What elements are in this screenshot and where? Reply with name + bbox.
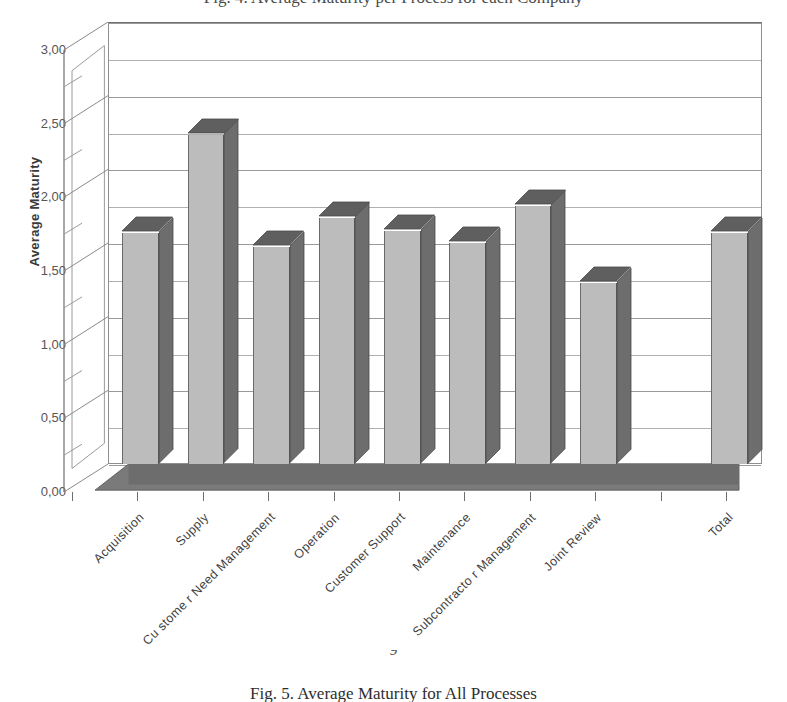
- bar-front-face: [580, 283, 617, 464]
- figure-chart-area: Average Maturity 0,000,501,001,502,002,5…: [0, 8, 787, 668]
- x-axis-tick: [464, 492, 465, 501]
- bars-layer: [72, 22, 762, 492]
- bar-front-face: [253, 247, 290, 464]
- bar-side-face: [224, 119, 240, 464]
- x-axis-tick: [399, 492, 400, 501]
- x-axis-label: Operation: [291, 510, 342, 561]
- bar-front-face: [319, 218, 356, 464]
- bar-front-face: [711, 233, 748, 464]
- bar-side-face: [748, 217, 764, 464]
- bar-top-face: [319, 201, 372, 218]
- bar-side-face: [486, 227, 502, 464]
- bar-side-face: [290, 231, 306, 464]
- plot-area-3d: [72, 22, 762, 492]
- x-axis-label: Cu stome r Need Management: [140, 510, 278, 648]
- bar-top-face: [384, 214, 437, 231]
- x-axis-tick: [530, 492, 531, 501]
- cropped-top-caption-text: Fig. 4. Average Maturity per Process for…: [0, 0, 787, 8]
- bar-side-face: [355, 202, 371, 464]
- bar-side-face: [421, 215, 437, 464]
- bar-column[interactable]: [449, 229, 486, 464]
- bar-column[interactable]: [580, 269, 617, 464]
- bar-front-face: [188, 135, 225, 464]
- x-axis-tick: [203, 492, 204, 501]
- x-axis-label: Joint Review: [541, 510, 604, 573]
- x-axis-tick: [595, 492, 596, 501]
- bar-column[interactable]: [319, 204, 356, 464]
- page-number-text: 9: [390, 650, 398, 658]
- bar-top-face: [253, 230, 306, 247]
- bar-column[interactable]: [253, 233, 290, 464]
- bar-column[interactable]: [122, 219, 159, 464]
- bar-top-face: [188, 118, 241, 135]
- bar-top-face: [711, 216, 764, 233]
- bar-side-face: [159, 217, 175, 464]
- bar-top-face: [580, 266, 633, 283]
- bar-top-face: [515, 189, 568, 206]
- bar-front-face: [515, 206, 552, 464]
- x-axis-tick: [334, 492, 335, 501]
- bar-column[interactable]: [515, 192, 552, 464]
- x-axis-label: Total: [706, 510, 736, 540]
- figure-caption-text: Fig. 5. Average Maturity for All Process…: [0, 684, 787, 702]
- bar-column[interactable]: [711, 219, 748, 464]
- x-axis-tick: [268, 492, 269, 501]
- bar-column[interactable]: [188, 121, 225, 464]
- bar-column[interactable]: [384, 217, 421, 464]
- x-axis-tick: [137, 492, 138, 501]
- bar-top-face: [449, 226, 502, 243]
- bar-front-face: [122, 233, 159, 464]
- x-axis-category-labels: AcquisitionSupplyCu stome r Need Managem…: [0, 506, 787, 626]
- x-axis-tick: [661, 492, 662, 501]
- bar-side-face: [617, 267, 633, 464]
- y-axis-line: [52, 22, 112, 522]
- bar-front-face: [384, 231, 421, 464]
- figure-caption: Fig. 5. Average Maturity for All Process…: [0, 684, 787, 702]
- x-axis-label: Subcontracto r Management: [410, 510, 539, 639]
- bar-side-face: [551, 190, 567, 464]
- x-axis-label: Maintenance: [410, 510, 474, 574]
- x-axis-label: Supply: [173, 510, 212, 549]
- x-axis-tick: [726, 492, 727, 501]
- bar-front-face: [449, 243, 486, 464]
- bar-top-face: [122, 216, 175, 233]
- page-number: 9: [0, 650, 787, 666]
